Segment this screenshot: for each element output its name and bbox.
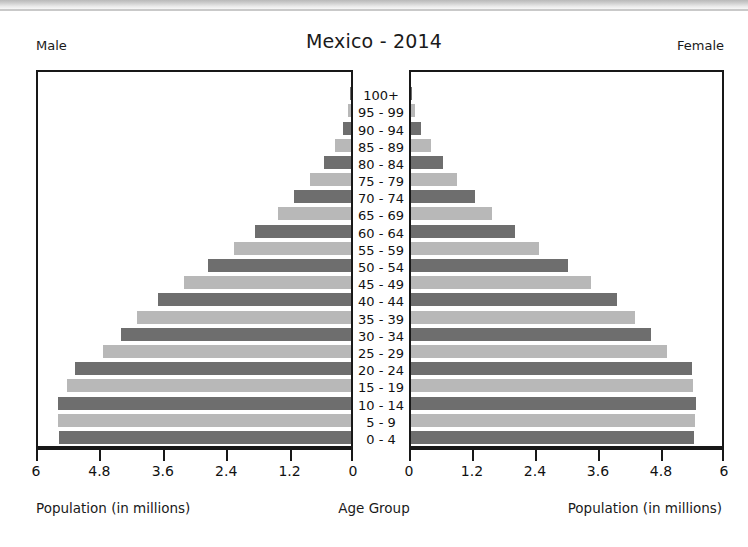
male-x-tick	[99, 450, 101, 461]
female-x-tick-label: 4.8	[650, 463, 672, 479]
female-x-tick-label: 2.4	[524, 463, 546, 479]
female-bar-row	[411, 240, 722, 257]
female-bar-0-4	[411, 431, 694, 444]
female-bar-60-64	[411, 225, 515, 238]
age-group-label: 80 - 84	[353, 156, 409, 173]
female-axis-title: Population (in millions)	[568, 500, 722, 516]
male-bar-row	[38, 240, 351, 257]
female-bar-70-74	[411, 190, 475, 203]
age-group-label: 90 - 94	[353, 121, 409, 138]
male-bar-row	[38, 343, 351, 360]
female-bar-row	[411, 343, 722, 360]
female-plot-area	[409, 70, 724, 448]
male-bar-25-29	[103, 345, 351, 358]
male-bar-row	[38, 154, 351, 171]
male-bar-90-94	[343, 122, 351, 135]
male-bar-60-64	[255, 225, 352, 238]
female-bar-85-89	[411, 139, 431, 152]
female-bar-10-14	[411, 397, 696, 410]
age-group-label: 30 - 34	[353, 328, 409, 345]
age-group-label: 60 - 64	[353, 225, 409, 242]
female-bar-row	[411, 205, 722, 222]
age-group-label: 55 - 59	[353, 242, 409, 259]
male-bar-row	[38, 394, 351, 411]
female-bar-80-84	[411, 156, 443, 169]
female-x-tick-label: 0	[405, 463, 414, 479]
male-bar-30-34	[121, 328, 351, 341]
male-x-axis: 64.83.62.41.20	[36, 448, 353, 482]
male-bar-75-79	[310, 173, 351, 186]
female-bar-row	[411, 360, 722, 377]
male-bar-65-69	[278, 207, 351, 220]
male-x-tick-label: 1.2	[278, 463, 300, 479]
female-bar-group	[411, 72, 722, 446]
male-bar-row	[38, 412, 351, 429]
chart-title: Mexico - 2014	[0, 30, 748, 52]
female-bar-row	[411, 429, 722, 446]
female-bar-50-54	[411, 259, 568, 272]
male-bar-50-54	[208, 259, 351, 272]
male-bar-55-59	[234, 242, 351, 255]
male-bar-5-9	[58, 414, 351, 427]
age-group-label: 75 - 79	[353, 173, 409, 190]
female-bar-row	[411, 274, 722, 291]
male-bar-row	[38, 119, 351, 136]
male-bar-row	[38, 309, 351, 326]
female-bar-30-34	[411, 328, 651, 341]
age-group-label: 95 - 99	[353, 104, 409, 121]
female-bar-row	[411, 171, 722, 188]
male-x-tick	[290, 450, 292, 461]
female-bar-55-59	[411, 242, 539, 255]
male-bar-row	[38, 188, 351, 205]
female-axis-line	[409, 448, 724, 450]
age-group-axis-labels: 0 - 45 - 910 - 1415 - 1920 - 2425 - 2930…	[353, 70, 409, 448]
female-bar-row	[411, 412, 722, 429]
male-bar-row	[38, 85, 351, 102]
age-group-label: 20 - 24	[353, 362, 409, 379]
male-bar-row	[38, 257, 351, 274]
male-bar-80-84	[324, 156, 351, 169]
female-bar-20-24	[411, 362, 692, 375]
male-bar-row	[38, 360, 351, 377]
female-bar-row	[411, 188, 722, 205]
female-bar-25-29	[411, 345, 667, 358]
female-bar-row	[411, 85, 722, 102]
male-bar-10-14	[58, 397, 351, 410]
male-bar-group	[38, 72, 351, 446]
male-bar-35-39	[137, 311, 351, 324]
female-bar-90-94	[411, 122, 421, 135]
age-group-label: 70 - 74	[353, 190, 409, 207]
male-bar-row	[38, 291, 351, 308]
female-bar-100+	[411, 87, 412, 100]
female-bar-row	[411, 137, 722, 154]
female-panel-label: Female	[677, 38, 724, 53]
male-x-tick-label: 6	[32, 463, 41, 479]
male-x-tick-label: 0	[349, 463, 358, 479]
male-x-tick-label: 2.4	[215, 463, 237, 479]
male-bar-15-19	[67, 379, 351, 392]
male-bar-row	[38, 429, 351, 446]
female-bar-row	[411, 377, 722, 394]
male-bar-row	[38, 137, 351, 154]
male-bar-85-89	[335, 139, 351, 152]
female-bar-45-49	[411, 276, 591, 289]
female-x-tick-label: 1.2	[461, 463, 483, 479]
male-bar-0-4	[59, 431, 351, 444]
male-bar-row	[38, 171, 351, 188]
age-group-label: 85 - 89	[353, 139, 409, 156]
age-group-label: 65 - 69	[353, 207, 409, 224]
male-x-tick-label: 3.6	[152, 463, 174, 479]
male-bar-row	[38, 205, 351, 222]
male-x-tick	[163, 450, 165, 461]
male-x-tick	[351, 450, 353, 461]
male-x-tick	[36, 450, 38, 461]
female-x-tick-label: 3.6	[587, 463, 609, 479]
male-bar-row	[38, 223, 351, 240]
female-x-tick	[722, 450, 724, 461]
male-bar-70-74	[294, 190, 351, 203]
female-x-tick-label: 6	[720, 463, 729, 479]
female-bar-row	[411, 394, 722, 411]
male-x-tick-label: 4.8	[88, 463, 110, 479]
female-bar-65-69	[411, 207, 492, 220]
female-bar-35-39	[411, 311, 635, 324]
